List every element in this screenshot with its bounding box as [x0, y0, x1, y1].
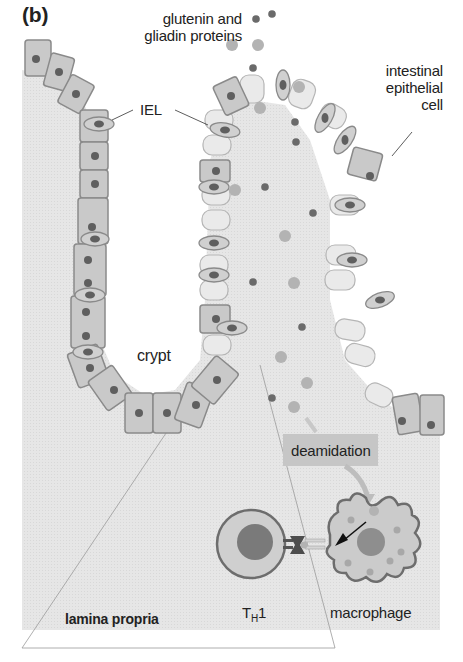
panel-label: (b)	[22, 6, 48, 23]
epithelial-cell-label: intestinal epithelial cell	[370, 62, 443, 113]
macrophage-label: macrophage	[330, 604, 411, 621]
th1-label-sub: H	[251, 613, 258, 624]
th1-label-main: T	[242, 604, 251, 621]
proteins-label: glutenin and gliadin proteins	[110, 10, 242, 44]
th1-cell	[217, 510, 285, 578]
iel-leader-left	[112, 110, 133, 120]
th1-label-suffix: 1	[258, 604, 266, 621]
deamidation-label: deamidation	[291, 442, 371, 459]
iel-leader-right	[175, 110, 208, 125]
iel-label: IEL	[140, 101, 162, 118]
epithelial-label-line3: cell	[370, 96, 443, 113]
proteins-label-line2: gliadin proteins	[110, 27, 242, 44]
proteins-label-line1: glutenin and	[110, 10, 242, 27]
macrophage-cell	[327, 493, 420, 581]
celiac-villus-diagram: (b) glutenin and gliadin proteins IEL in…	[0, 0, 463, 662]
crypt-label: crypt	[137, 347, 171, 364]
epithelial-label-line2: epithelial	[370, 79, 443, 96]
epithelial-leader	[392, 132, 412, 156]
epithelial-label-line1: intestinal	[370, 62, 443, 79]
th1-label: TH1	[242, 604, 266, 627]
lamina-propria-label: lamina propria	[65, 611, 159, 628]
